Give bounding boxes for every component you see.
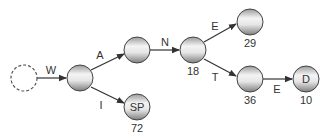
count-wisp: 72 [131, 122, 143, 134]
edge-w: W [37, 64, 66, 78]
node-wanted: D 10 [293, 66, 319, 106]
node-wane: 29 [237, 9, 263, 49]
count-wane: 29 [244, 37, 256, 49]
edge-label-w: W [46, 64, 57, 76]
node-w [67, 65, 93, 91]
count-wanted: 10 [300, 94, 312, 106]
node-want: 36 [237, 66, 263, 106]
edge-label-t: T [212, 71, 219, 83]
edge-i: I [91, 87, 124, 111]
edge-label-i: I [99, 99, 102, 111]
node-text-d: D [302, 73, 310, 85]
edge-label-a: A [96, 49, 104, 61]
trie-diagram: W A I N E T E 18 29 36 [0, 0, 326, 139]
edge-label-e2: E [273, 83, 280, 95]
edge-n: N [150, 36, 179, 50]
edge-a: A [91, 49, 124, 70]
node-wan: 18 [180, 37, 206, 77]
edge-t: T [204, 59, 236, 83]
node-wisp: SP 72 [124, 94, 150, 134]
edge-e1: E [204, 20, 236, 42]
edge-label-e1: E [211, 20, 218, 32]
node-wa [124, 37, 150, 63]
node-root [11, 65, 37, 91]
count-want: 36 [244, 94, 256, 106]
edge-label-n: N [161, 36, 169, 48]
count-wan: 18 [187, 65, 199, 77]
node-text-sp: SP [130, 101, 145, 113]
edge-e2: E [263, 79, 292, 95]
